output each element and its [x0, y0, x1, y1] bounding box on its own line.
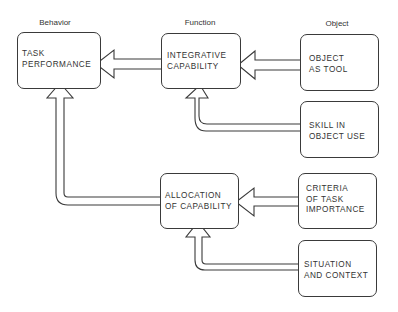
node-label: OBJECT AS TOOL — [309, 54, 348, 75]
node-situation-and-context: SITUATION AND CONTEXT — [298, 240, 377, 297]
arrow-integrative-to-task — [96, 50, 161, 78]
node-label: SITUATION AND CONTEXT — [304, 260, 368, 281]
node-task-performance: TASK PERFORMANCE — [17, 32, 101, 89]
arrow-skill-to-integrative — [186, 85, 300, 131]
node-object-as-tool: OBJECT AS TOOL — [300, 34, 379, 91]
arrow-criteria-to-allocation — [236, 188, 298, 216]
node-label: CRITERIA OF TASK IMPORTANCE — [306, 184, 365, 216]
arrow-allocation-to-task — [47, 83, 160, 205]
arrow-situation-to-allocation — [186, 222, 298, 270]
node-label: ALLOCATION OF CAPABILITY — [165, 191, 232, 212]
node-label: TASK PERFORMANCE — [22, 49, 91, 70]
node-allocation-of-capability: ALLOCATION OF CAPABILITY — [160, 173, 239, 229]
node-criteria-of-task-importance: CRITERIA OF TASK IMPORTANCE — [298, 173, 377, 229]
node-label: SKILL IN OBJECT USE — [309, 121, 365, 142]
arrow-object-to-integrative — [238, 51, 300, 79]
node-integrative-capability: INTEGRATIVE CAPABILITY — [161, 33, 241, 89]
node-skill-in-object-use: SKILL IN OBJECT USE — [300, 101, 379, 158]
node-label: INTEGRATIVE CAPABILITY — [167, 51, 226, 72]
